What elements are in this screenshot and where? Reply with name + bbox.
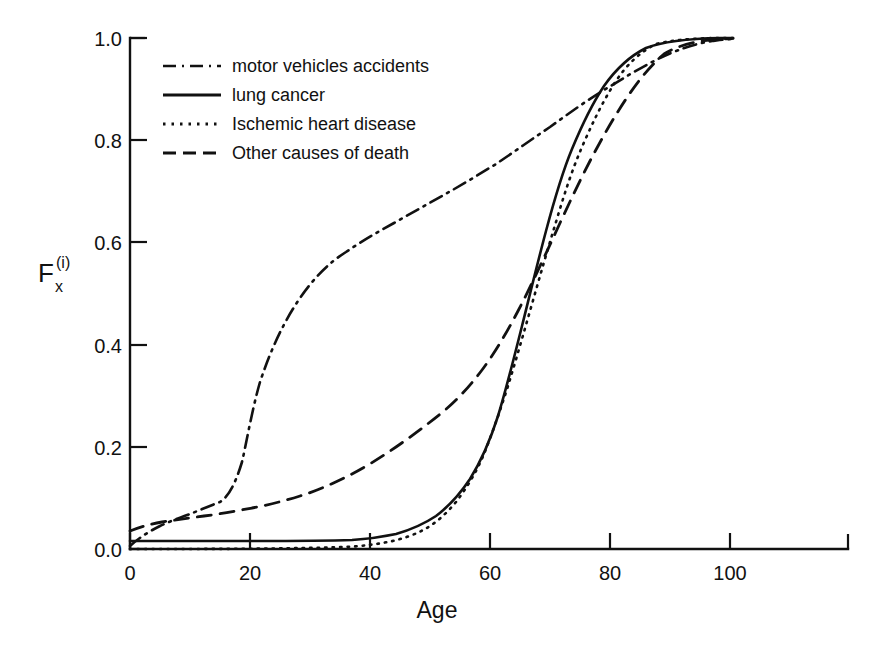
y-axis-title-main: F [38, 258, 54, 288]
x-tick-label-80: 80 [599, 562, 621, 584]
legend-label-0: motor vehicles accidents [232, 56, 429, 76]
x-tick-label-100: 100 [713, 562, 746, 584]
legend-item-other-causes-of-death[interactable]: Other causes of death [163, 143, 409, 163]
chart-canvas: 1.0 0.8 0.6 0.4 0.2 0.0 0 20 40 60 80 10… [0, 0, 871, 654]
legend-item-motor-vehicles-accidents[interactable]: motor vehicles accidents [163, 56, 429, 76]
legend-label-2: Ischemic heart disease [232, 114, 416, 134]
y-tick-label-5: 1.0 [94, 28, 122, 50]
y-tick-label-0: 0.0 [94, 539, 122, 561]
x-tick-label-0: 0 [124, 562, 135, 584]
y-axis-title-superscript: (i) [56, 254, 70, 271]
x-tick-label-40: 40 [359, 562, 381, 584]
y-tick-label-1: 0.2 [94, 437, 122, 459]
legend-item-lung-cancer[interactable]: lung cancer [163, 85, 325, 105]
y-tick-label-3: 0.6 [94, 232, 122, 254]
y-tick-group [130, 38, 147, 549]
legend-item-ischemic-heart-disease[interactable]: Ischemic heart disease [163, 114, 416, 134]
y-tick-label-4: 0.8 [94, 130, 122, 152]
series-line-other-causes-of-death [130, 38, 733, 531]
series-line-lung-cancer [130, 38, 733, 541]
y-axis-title: F x (i) [38, 254, 70, 295]
x-tick-label-group: 0 20 40 60 80 100 [124, 562, 746, 584]
legend-label-1: lung cancer [232, 85, 325, 105]
series-line-motor-vehicles-accidents [130, 39, 733, 546]
figure-chart: 1.0 0.8 0.6 0.4 0.2 0.0 0 20 40 60 80 10… [0, 0, 871, 654]
series-group [130, 38, 733, 549]
x-tick-label-20: 20 [239, 562, 261, 584]
legend-label-3: Other causes of death [232, 143, 409, 163]
y-tick-label-2: 0.4 [94, 335, 122, 357]
x-axis-title: Age [417, 597, 458, 623]
x-tick-label-60: 60 [479, 562, 501, 584]
y-axis-title-subscript: x [55, 278, 63, 295]
y-tick-label-group: 1.0 0.8 0.6 0.4 0.2 0.0 [94, 28, 122, 561]
series-line-ischemic-heart-disease [130, 38, 733, 549]
legend: motor vehicles accidents lung cancer Isc… [163, 56, 429, 163]
